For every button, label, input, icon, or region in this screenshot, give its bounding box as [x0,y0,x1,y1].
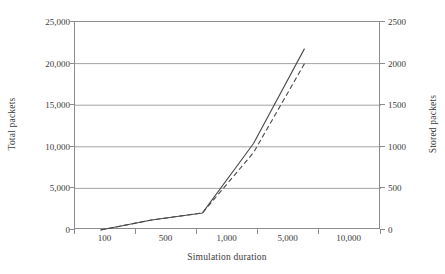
y-axis-title-left: Total packets [7,79,17,169]
y-tick-label-left: 10,000 [24,142,70,152]
x-tick-label: 100 [75,233,135,243]
y-tick-label-right: 0 [388,225,434,235]
y-tick-label-left: 15,000 [24,100,70,110]
y-tick-label-left: 25,000 [24,17,70,27]
x-axis-title: Simulation duration [74,252,380,262]
data-line-dashed [101,64,305,230]
x-tick-label: 1,000 [197,233,257,243]
chart-figure: Total packets Stored packets Simulation … [0,0,445,274]
y-tick-label-left: 20,000 [24,59,70,69]
x-tick-label: 10,000 [319,233,379,243]
y-tick-label-right: 1000 [388,142,434,152]
x-tick-label: 500 [136,233,196,243]
data-line-solid [101,49,305,230]
y-tick-label-right: 1500 [388,100,434,110]
y-tick-label-left: 0 [24,225,70,235]
plot-area [74,21,380,229]
y-tick-label-right: 500 [388,183,434,193]
y-tick-label-left: 5,000 [24,183,70,193]
y-axis-title-right: Stored packets [428,79,438,169]
y-tick-label-right: 2500 [388,17,434,27]
y-tick-label-right: 2000 [388,59,434,69]
data-series-layer [75,22,381,230]
x-tick-label: 5,000 [258,233,318,243]
